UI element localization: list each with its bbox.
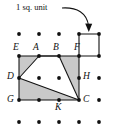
vertex-label-A: A: [33, 43, 39, 53]
unit-square-outline: [79, 34, 99, 56]
grid-dot: [17, 120, 21, 124]
curved-arrow-shaft: [62, 8, 89, 26]
grid-dot: [37, 76, 41, 80]
unit-square-callout-label: 1 sq. unit: [16, 3, 47, 12]
grid-dot: [97, 32, 101, 36]
grid-dot: [37, 32, 41, 36]
geometry-figure: 1 sq. unit E A B F D H G K C: [0, 0, 113, 133]
grid-dot-H: [77, 76, 81, 80]
grid-dot-B: [57, 54, 61, 58]
grid-dot-D: [17, 76, 21, 80]
grid-dot: [37, 98, 41, 102]
grid-dot-C: [77, 98, 81, 102]
dot-grid-diagram: [0, 0, 113, 133]
vertex-label-H: H: [83, 72, 90, 82]
vertex-label-B: B: [53, 43, 59, 53]
grid-dot: [97, 54, 101, 58]
vertex-label-F: F: [74, 43, 80, 53]
grid-dot: [57, 76, 61, 80]
grid-dot: [97, 76, 101, 80]
grid-dot: [77, 32, 81, 36]
grid-dot: [77, 120, 81, 124]
grid-dot-E: [17, 54, 21, 58]
callout-arrow: [62, 8, 92, 32]
vertex-label-E: E: [13, 43, 19, 53]
curved-arrow-head: [85, 23, 92, 32]
vertex-label-C: C: [83, 95, 89, 105]
grid-dot: [57, 120, 61, 124]
unit-square: [79, 34, 99, 56]
vertex-label-K: K: [55, 103, 61, 113]
grid-dot-G: [17, 98, 21, 102]
vertex-label-D: D: [7, 72, 14, 82]
grid-dot-A: [37, 54, 41, 58]
grid-dot: [37, 120, 41, 124]
grid-dot-F: [77, 54, 81, 58]
vertex-label-G: G: [7, 95, 14, 105]
grid-dot: [57, 32, 61, 36]
grid-dot: [97, 98, 101, 102]
grid-dot: [97, 120, 101, 124]
grid-dot: [17, 32, 21, 36]
